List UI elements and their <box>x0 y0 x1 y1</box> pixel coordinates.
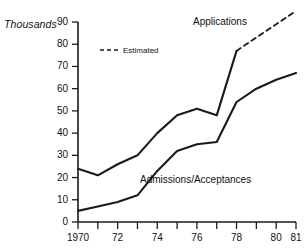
y-tick-label: 20 <box>48 173 68 183</box>
series-label-applications: Applications <box>193 16 247 27</box>
chart-canvas <box>0 0 308 249</box>
series-label-admissions: Admissions/Acceptances <box>140 174 251 185</box>
x-axis-ticks <box>78 222 296 229</box>
x-tick-label: 72 <box>102 233 134 243</box>
y-tick-label: 30 <box>48 150 68 160</box>
y-tick-label: 0 <box>48 217 68 227</box>
series-line-applications <box>78 51 237 175</box>
x-tick-label: 81 <box>280 233 308 243</box>
y-tick-label: 50 <box>48 106 68 116</box>
line-chart: Thousands 0102030405060708090 1970727476… <box>0 0 308 249</box>
y-axis-ticks <box>72 22 78 222</box>
legend-label-estimated: Estimated <box>123 46 159 55</box>
x-tick-label: 76 <box>181 233 213 243</box>
x-tick-label: 1970 <box>62 233 94 243</box>
series-line-admissions-acceptances <box>78 73 296 211</box>
y-tick-label: 90 <box>48 17 68 27</box>
y-tick-label: 10 <box>48 195 68 205</box>
x-tick-label: 78 <box>221 233 253 243</box>
y-tick-label: 80 <box>48 39 68 49</box>
x-tick-label: 74 <box>141 233 173 243</box>
y-tick-label: 60 <box>48 84 68 94</box>
y-tick-label: 40 <box>48 128 68 138</box>
y-tick-label: 70 <box>48 61 68 71</box>
